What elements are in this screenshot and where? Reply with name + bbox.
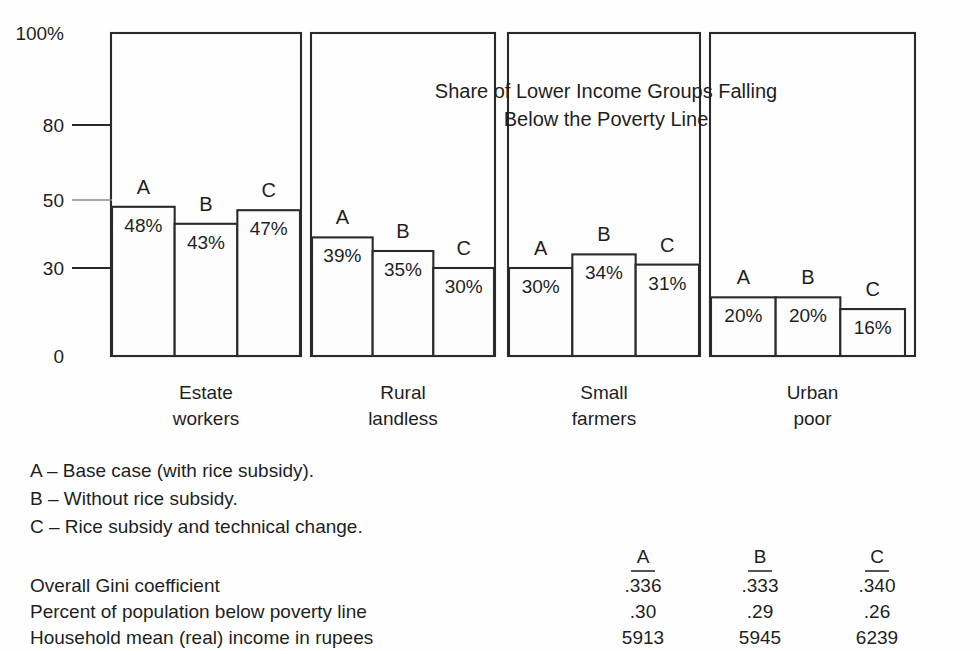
y-tick-label-100%: 100%	[15, 23, 64, 44]
bar-letter-B-2: B	[396, 220, 409, 242]
poverty-share-figure: 100%8050300 48%A43%B47%C39%A35%B30%C30%A…	[0, 0, 980, 651]
legend-block: A – Base case (with rice subsidy).B – Wi…	[30, 460, 363, 537]
category-labels: EstateworkersRurallandlessSmallfarmersUr…	[172, 382, 839, 429]
bar-value-A-3: 30%	[522, 276, 560, 297]
bar-value-B-2: 35%	[384, 259, 422, 280]
bar-letter-A-1: A	[137, 176, 151, 198]
table-row-label-3: Household mean (real) income in rupees	[30, 627, 373, 648]
bar-letter-A-3: A	[534, 237, 548, 259]
category-label-2-line-2: landless	[368, 408, 438, 429]
legend-item-B: B – Without rice subsidy.	[30, 488, 238, 509]
table-cell-r2-A: .30	[630, 601, 656, 622]
table-cell-r1-C: .340	[859, 575, 896, 596]
y-axis: 100%8050300	[15, 23, 112, 367]
chart-title-line-2: Below the Poverty Line	[504, 108, 709, 130]
category-label-1-line-2: workers	[172, 408, 240, 429]
legend-text-B: B – Without rice subsidy.	[30, 488, 238, 509]
table-cell-r2-B: .29	[747, 601, 773, 622]
category-label-1: Estateworkers	[172, 382, 240, 429]
chart-title-line-1: Share of Lower Income Groups Falling	[435, 80, 777, 102]
category-label-1-line-1: Estate	[179, 382, 233, 403]
summary-table: ABCOverall Gini coefficient.336.333.340P…	[30, 546, 898, 648]
y-tick-label-0: 0	[53, 346, 64, 367]
bar-letter-A-2: A	[336, 206, 350, 228]
table-cell-r3-C: 6239	[856, 627, 898, 648]
bar-value-A-1: 48%	[124, 215, 162, 236]
category-label-2-line-1: Rural	[380, 382, 425, 403]
category-label-3: Smallfarmers	[572, 382, 636, 429]
table-cell-r1-B: .333	[742, 575, 779, 596]
bar-value-B-4: 20%	[789, 305, 827, 326]
table-cell-r3-B: 5945	[739, 627, 781, 648]
table-column-header-B: B	[754, 546, 767, 567]
bar-value-C-3: 31%	[648, 273, 686, 294]
bar-letter-C-3: C	[660, 234, 674, 256]
y-tick-label-30: 30	[43, 258, 64, 279]
legend-text-C: C – Rice subsidy and technical change.	[30, 516, 363, 537]
legend-item-C: C – Rice subsidy and technical change.	[30, 516, 363, 537]
table-column-header-A: A	[637, 546, 650, 567]
table-cell-r3-A: 5913	[622, 627, 664, 648]
category-label-2: Rurallandless	[368, 382, 438, 429]
category-label-3-line-2: farmers	[572, 408, 636, 429]
table-column-header-C: C	[870, 546, 884, 567]
table-row-label-1: Overall Gini coefficient	[30, 575, 220, 596]
table-row: Overall Gini coefficient.336.333.340	[30, 575, 895, 596]
table-cell-r1-A: .336	[625, 575, 662, 596]
category-label-4-line-1: Urban	[787, 382, 839, 403]
y-tick-label-50: 50	[43, 190, 64, 211]
category-label-4: Urbanpoor	[787, 382, 839, 429]
bar-letter-B-4: B	[801, 266, 814, 288]
table-row-label-2: Percent of population below poverty line	[30, 601, 367, 622]
legend-text-A: A – Base case (with rice subsidy).	[30, 460, 314, 481]
table-cell-r2-C: .26	[864, 601, 890, 622]
bar-value-B-3: 34%	[585, 262, 623, 283]
category-label-3-line-1: Small	[580, 382, 628, 403]
table-row: Percent of population below poverty line…	[30, 601, 890, 622]
bar-letter-A-4: A	[737, 266, 751, 288]
bar-letter-B-1: B	[199, 193, 212, 215]
bar-letter-B-3: B	[597, 223, 610, 245]
y-tick-label-80: 80	[43, 115, 64, 136]
chart-title: Share of Lower Income Groups FallingBelo…	[435, 80, 777, 130]
bar-letter-C-2: C	[456, 237, 470, 259]
figure-root: 100%8050300 48%A43%B47%C39%A35%B30%C30%A…	[0, 0, 980, 651]
bar-value-C-2: 30%	[445, 276, 483, 297]
bar-letter-C-4: C	[865, 278, 879, 300]
bar-value-C-1: 47%	[250, 218, 288, 239]
bar-value-A-4: 20%	[724, 305, 762, 326]
category-label-4-line-2: poor	[793, 408, 832, 429]
bar-value-B-1: 43%	[187, 232, 225, 253]
bar-value-C-4: 16%	[854, 317, 892, 338]
bar-letter-C-1: C	[261, 179, 275, 201]
bar-value-A-2: 39%	[323, 245, 361, 266]
legend-item-A: A – Base case (with rice subsidy).	[30, 460, 314, 481]
table-row: Household mean (real) income in rupees59…	[30, 627, 898, 648]
